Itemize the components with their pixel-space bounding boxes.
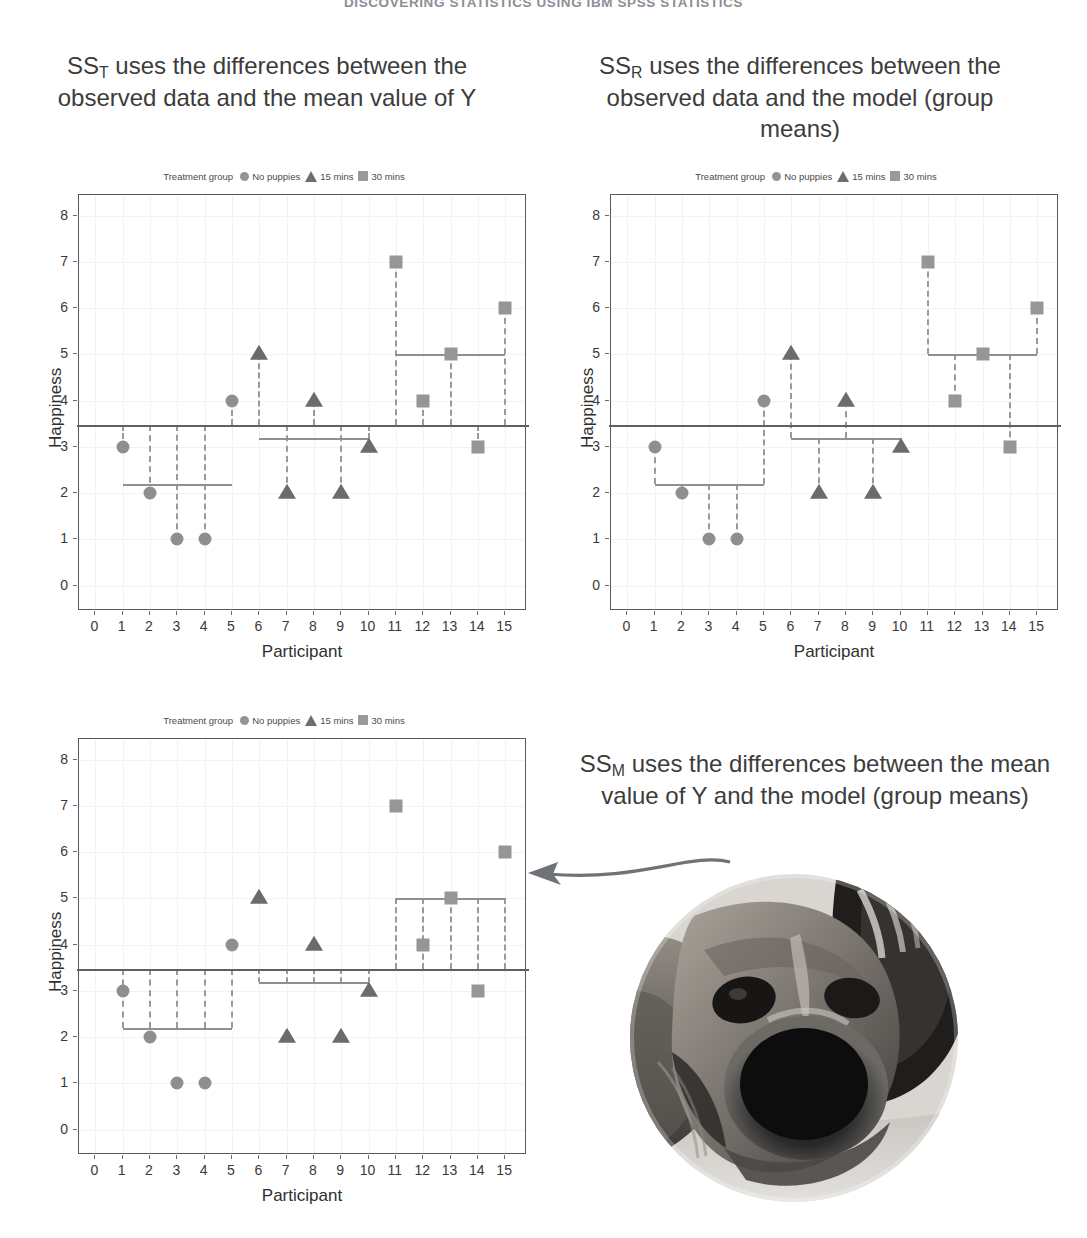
- circle-marker-icon[interactable]: [703, 533, 716, 546]
- circle-marker-icon[interactable]: [198, 533, 211, 546]
- legend-entry[interactable]: 30 mins: [890, 171, 936, 182]
- triangle-marker-icon[interactable]: [360, 982, 378, 997]
- circle-marker-icon[interactable]: [144, 1031, 157, 1044]
- square-marker-icon[interactable]: [417, 394, 430, 407]
- square-marker-icon[interactable]: [444, 892, 457, 905]
- deviation-line: [708, 484, 710, 539]
- legend-entry[interactable]: 15 mins: [305, 715, 353, 726]
- caption-sst-rest: uses the differences between the observe…: [58, 52, 477, 111]
- square-marker-icon[interactable]: [499, 846, 512, 859]
- y-axis-tick-mark: [73, 215, 77, 216]
- triangle-marker-icon[interactable]: [278, 1028, 296, 1043]
- gridline-vertical: [123, 195, 124, 609]
- triangle-marker-icon[interactable]: [892, 438, 910, 453]
- square-marker-icon[interactable]: [471, 440, 484, 453]
- circle-marker-icon[interactable]: [757, 394, 770, 407]
- group-mean-line: [123, 484, 232, 486]
- triangle-marker-icon[interactable]: [332, 1028, 350, 1043]
- square-marker-icon[interactable]: [976, 348, 989, 361]
- deviation-line: [395, 898, 397, 969]
- x-axis-tick-label: 0: [84, 619, 104, 633]
- circle-marker-icon: [772, 172, 781, 181]
- circle-marker-icon[interactable]: [676, 487, 689, 500]
- square-marker-icon[interactable]: [389, 800, 402, 813]
- circle-marker-icon[interactable]: [198, 1077, 211, 1090]
- x-axis-tick-mark: [122, 1155, 123, 1159]
- square-marker-icon[interactable]: [471, 984, 484, 997]
- x-axis-tick-mark: [450, 1155, 451, 1159]
- caption-ssm-rest: uses the differences between the mean va…: [601, 750, 1050, 809]
- legend-entry-label: 30 mins: [371, 715, 404, 726]
- x-axis-tick-mark: [286, 611, 287, 615]
- triangle-marker-icon[interactable]: [250, 345, 268, 360]
- square-marker-icon[interactable]: [1031, 302, 1044, 315]
- x-axis-tick-label: 8: [303, 1163, 323, 1177]
- square-marker-icon[interactable]: [444, 348, 457, 361]
- caption-ssm-subscript: M: [612, 762, 625, 779]
- square-marker-icon[interactable]: [417, 938, 430, 951]
- triangle-marker-icon[interactable]: [305, 391, 323, 406]
- y-axis-tick-mark: [73, 446, 77, 447]
- x-axis-tick-mark: [368, 1155, 369, 1159]
- y-axis-tick-mark: [73, 353, 77, 354]
- y-axis-tick-label: 7: [52, 254, 68, 268]
- circle-marker-icon[interactable]: [730, 533, 743, 546]
- y-axis-tick-label: 6: [52, 300, 68, 314]
- gridline-horizontal: [611, 216, 1057, 217]
- circle-marker-icon[interactable]: [116, 984, 129, 997]
- square-marker-icon[interactable]: [389, 256, 402, 269]
- gridline-vertical: [369, 195, 370, 609]
- x-axis-tick-label: 12: [412, 1163, 432, 1177]
- triangle-marker-icon[interactable]: [250, 889, 268, 904]
- legend-entry[interactable]: No puppies: [772, 171, 832, 182]
- x-axis-tick-mark: [954, 611, 955, 615]
- legend-entry[interactable]: 30 mins: [358, 715, 404, 726]
- gridline-vertical: [205, 739, 206, 1153]
- square-marker-icon[interactable]: [921, 256, 934, 269]
- triangle-marker-icon[interactable]: [278, 484, 296, 499]
- triangle-marker-icon[interactable]: [305, 935, 323, 950]
- legend-entry[interactable]: 30 mins: [358, 171, 404, 182]
- circle-marker-icon[interactable]: [225, 394, 238, 407]
- legend-entry[interactable]: 15 mins: [305, 171, 353, 182]
- y-axis-tick-label: 1: [584, 531, 600, 545]
- circle-marker-icon[interactable]: [144, 487, 157, 500]
- square-marker-icon[interactable]: [949, 394, 962, 407]
- running-head: DISCOVERING STATISTICS USING IBM SPSS ST…: [0, 0, 1087, 8]
- circle-marker-icon[interactable]: [171, 533, 184, 546]
- triangle-marker-icon[interactable]: [782, 345, 800, 360]
- group-mean-line: [655, 484, 764, 486]
- circle-marker-icon[interactable]: [171, 1077, 184, 1090]
- legend-entry[interactable]: 15 mins: [837, 171, 885, 182]
- circle-marker-icon[interactable]: [116, 440, 129, 453]
- y-axis-tick-label: 2: [584, 485, 600, 499]
- legend-entry[interactable]: No puppies: [240, 715, 300, 726]
- x-axis-tick-mark: [204, 611, 205, 615]
- triangle-marker-icon[interactable]: [864, 484, 882, 499]
- x-axis-tick-mark: [176, 611, 177, 615]
- deviation-line: [231, 969, 233, 1028]
- legend-entry[interactable]: No puppies: [240, 171, 300, 182]
- x-axis-tick-label: 14: [999, 619, 1019, 633]
- gridline-horizontal: [611, 539, 1057, 540]
- gridline-horizontal: [79, 1130, 525, 1131]
- triangle-marker-icon[interactable]: [360, 438, 378, 453]
- triangle-marker-icon[interactable]: [332, 484, 350, 499]
- y-axis-tick-mark: [73, 1036, 77, 1037]
- x-axis-tick-label: 10: [358, 619, 378, 633]
- triangle-marker-icon[interactable]: [837, 391, 855, 406]
- circle-marker-icon[interactable]: [648, 440, 661, 453]
- square-marker-icon: [358, 715, 368, 725]
- gridline-horizontal: [79, 991, 525, 992]
- legend-entry-label: 30 mins: [371, 171, 404, 182]
- square-marker-icon[interactable]: [499, 302, 512, 315]
- legend-entry-label: 15 mins: [852, 171, 885, 182]
- x-axis-tick-label: 14: [467, 619, 487, 633]
- x-axis-tick-label: 1: [112, 1163, 132, 1177]
- square-marker-icon[interactable]: [1003, 440, 1016, 453]
- circle-marker-icon[interactable]: [225, 938, 238, 951]
- y-axis-tick-mark: [605, 446, 609, 447]
- triangle-marker-icon[interactable]: [810, 484, 828, 499]
- gridline-vertical: [627, 195, 628, 609]
- y-axis-tick-mark: [73, 1129, 77, 1130]
